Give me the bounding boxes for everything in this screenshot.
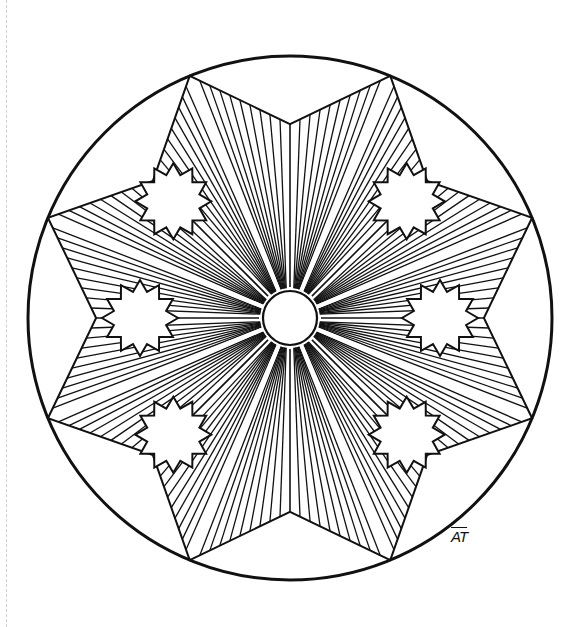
starburst <box>102 280 178 356</box>
ray-line <box>220 90 282 289</box>
center-circle <box>263 291 317 345</box>
artist-signature: AT <box>451 528 467 545</box>
ray-line <box>298 347 360 546</box>
ray-line <box>299 347 380 556</box>
ray-line <box>220 347 282 546</box>
mandala-drawing <box>0 0 588 627</box>
ray-line <box>298 90 360 289</box>
ray-line <box>200 347 281 556</box>
ray-line <box>299 81 380 290</box>
starburst <box>402 280 478 356</box>
ray-line <box>200 81 281 290</box>
